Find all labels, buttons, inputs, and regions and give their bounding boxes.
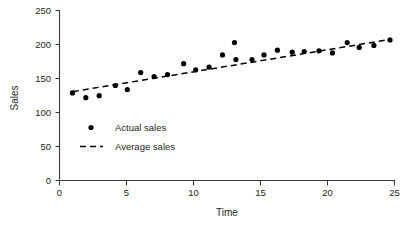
- data-point: [330, 50, 335, 55]
- data-point: [70, 90, 75, 95]
- x-tick-label-25: 25: [389, 187, 400, 198]
- data-point: [275, 48, 280, 53]
- data-point: [371, 43, 376, 48]
- average-sales-trend-line: [73, 39, 392, 91]
- y-tick-label-150: 150: [35, 73, 51, 84]
- x-tick-label-5: 5: [124, 187, 129, 198]
- legend-label-actual-sales: Actual sales: [115, 122, 166, 133]
- data-point: [290, 50, 295, 55]
- chart-axes: [60, 11, 395, 181]
- y-tick-label-0: 0: [46, 175, 51, 186]
- data-point: [302, 49, 307, 54]
- data-point: [232, 40, 237, 45]
- x-axis-ticks: 0 5 10 15 20 25: [57, 181, 400, 199]
- data-point: [249, 57, 254, 62]
- data-point: [357, 45, 362, 50]
- y-tick-label-100: 100: [35, 107, 51, 118]
- trend-line-segment: [73, 39, 392, 91]
- data-point: [152, 74, 157, 79]
- data-point: [345, 40, 350, 45]
- data-point: [83, 95, 88, 100]
- x-tick-label-0: 0: [57, 187, 62, 198]
- x-tick-label-15: 15: [255, 187, 266, 198]
- x-axis-title: Time: [216, 207, 238, 218]
- y-axis-title: Sales: [9, 85, 20, 110]
- chart-legend: Actual sales Average sales: [80, 122, 175, 152]
- legend-label-average-sales: Average sales: [115, 141, 175, 152]
- data-point: [165, 72, 170, 77]
- data-point: [181, 61, 186, 66]
- y-tick-label-250: 250: [35, 5, 51, 16]
- sales-vs-time-scatter-chart: 0 50 100 150 200 250 0 5 10 15 20 25 Tim…: [0, 0, 417, 227]
- y-tick-label-200: 200: [35, 39, 51, 50]
- data-point: [316, 48, 321, 53]
- data-point: [233, 57, 238, 62]
- y-tick-label-50: 50: [40, 141, 51, 152]
- data-point: [220, 52, 225, 57]
- data-point: [113, 83, 118, 88]
- data-point: [387, 37, 392, 42]
- x-tick-label-10: 10: [188, 187, 199, 198]
- data-point: [125, 87, 130, 92]
- data-point: [261, 52, 266, 57]
- x-tick-label-20: 20: [322, 187, 333, 198]
- legend-marker-actual-sales-icon: [88, 125, 93, 130]
- data-point: [97, 93, 102, 98]
- y-axis-ticks: 0 50 100 150 200 250: [35, 5, 59, 186]
- data-point: [138, 70, 143, 75]
- data-point: [207, 65, 212, 70]
- data-point: [193, 67, 198, 72]
- chart-figure: 0 50 100 150 200 250 0 5 10 15 20 25 Tim…: [0, 0, 417, 227]
